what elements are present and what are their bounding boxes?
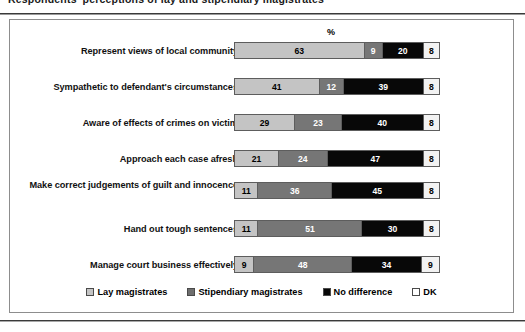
chart-row: Aware of effects of crimes on victim2923… xyxy=(0,114,525,131)
stacked-bar: 1151308 xyxy=(234,220,440,237)
category-label: Sympathetic to defendant's circumstances xyxy=(8,82,238,93)
bar-segment-value: 45 xyxy=(372,186,382,196)
stacked-bar: 2124478 xyxy=(234,150,440,167)
bar-segment-value: 8 xyxy=(429,186,434,196)
bar-segment-stipendiary-magistrates: 51 xyxy=(257,221,361,236)
bar-segment-value: 20 xyxy=(398,46,408,56)
stacked-bar-chart-plot: Represent views of local community639208… xyxy=(0,0,525,332)
horizontal-rule-bottom xyxy=(0,320,525,322)
chart-row: Make correct judgements of guilt and inn… xyxy=(0,182,525,199)
stipendiary-magistrates-swatch xyxy=(187,288,195,296)
category-label: Hand out tough sentences xyxy=(8,224,238,235)
bar-segment-value: 9 xyxy=(428,260,433,270)
legend-label: DK xyxy=(423,287,436,297)
bar-segment-lay-magistrates: 21 xyxy=(235,151,278,166)
bar-segment-value: 8 xyxy=(429,46,434,56)
legend-label: Stipendiary magistrates xyxy=(198,287,302,297)
bar-segment-value: 48 xyxy=(298,260,308,270)
bar-segment-value: 29 xyxy=(260,118,270,128)
legend-item[interactable]: Lay magistrates xyxy=(86,287,167,297)
chart-row: Manage court business effectively948349 xyxy=(0,256,525,273)
bar-segment-value: 8 xyxy=(429,118,434,128)
bar-segment-value: 12 xyxy=(327,82,337,92)
bar-segment-value: 8 xyxy=(429,154,434,164)
bar-segment-dk: 8 xyxy=(423,79,439,94)
stacked-bar: 4112398 xyxy=(234,78,440,95)
bar-segment-stipendiary-magistrates: 23 xyxy=(294,115,341,130)
bar-segment-value: 40 xyxy=(378,118,388,128)
dk-swatch xyxy=(412,288,420,296)
lay-magistrates-swatch xyxy=(86,288,94,296)
bar-segment-stipendiary-magistrates: 48 xyxy=(253,257,351,272)
bar-segment-value: 24 xyxy=(298,154,308,164)
bar-segment-lay-magistrates: 29 xyxy=(235,115,294,130)
bar-segment-value: 30 xyxy=(388,224,398,234)
bar-segment-stipendiary-magistrates: 24 xyxy=(278,151,327,166)
bar-segment-lay-magistrates: 63 xyxy=(235,43,364,58)
bar-segment-dk: 9 xyxy=(421,257,439,272)
category-label: Make correct judgements of guilt and inn… xyxy=(8,180,238,191)
bar-segment-lay-magistrates: 41 xyxy=(235,79,319,94)
category-label: Aware of effects of crimes on victim xyxy=(8,118,238,129)
bar-segment-dk: 8 xyxy=(423,43,439,58)
category-label: Manage court business effectively xyxy=(8,260,238,271)
bar-segment-value: 23 xyxy=(313,118,323,128)
bar-segment-no-difference: 40 xyxy=(341,115,423,130)
bar-segment-value: 34 xyxy=(382,260,392,270)
bar-segment-value: 51 xyxy=(305,224,315,234)
legend-item[interactable]: No difference xyxy=(323,287,393,297)
stacked-bar: 948349 xyxy=(234,256,440,273)
bar-segment-value: 8 xyxy=(429,224,434,234)
legend-item[interactable]: Stipendiary magistrates xyxy=(187,287,302,297)
bar-segment-stipendiary-magistrates: 12 xyxy=(319,79,343,94)
bar-segment-value: 39 xyxy=(379,82,389,92)
bar-segment-value: 9 xyxy=(242,260,247,270)
bar-segment-value: 36 xyxy=(290,186,300,196)
bar-segment-value: 63 xyxy=(294,46,304,56)
legend-label: Lay magistrates xyxy=(97,287,167,297)
bar-segment-no-difference: 34 xyxy=(351,257,420,272)
chart-legend: Lay magistratesStipendiary magistratesNo… xyxy=(9,287,514,297)
bar-segment-stipendiary-magistrates: 36 xyxy=(257,183,330,198)
bar-segment-value: 9 xyxy=(371,46,376,56)
legend-item[interactable]: DK xyxy=(412,287,436,297)
bar-segment-dk: 8 xyxy=(423,221,439,236)
bar-segment-lay-magistrates: 11 xyxy=(235,183,257,198)
bar-segment-dk: 8 xyxy=(423,151,439,166)
stacked-bar: 2923408 xyxy=(234,114,440,131)
category-label: Represent views of local community xyxy=(8,46,238,57)
bar-segment-stipendiary-magistrates: 9 xyxy=(364,43,382,58)
category-label: Approach each case afresh xyxy=(8,154,238,165)
bar-segment-dk: 8 xyxy=(423,115,439,130)
bar-segment-no-difference: 47 xyxy=(327,151,423,166)
chart-row: Sympathetic to defendant's circumstances… xyxy=(0,78,525,95)
bar-segment-no-difference: 39 xyxy=(343,79,423,94)
bar-segment-value: 21 xyxy=(252,154,262,164)
bar-segment-value: 47 xyxy=(370,154,380,164)
bar-segment-lay-magistrates: 11 xyxy=(235,221,257,236)
chart-row: Hand out tough sentences1151308 xyxy=(0,220,525,237)
bar-segment-lay-magistrates: 9 xyxy=(235,257,253,272)
bar-segment-value: 41 xyxy=(272,82,282,92)
legend-label: No difference xyxy=(334,287,393,297)
no-difference-swatch xyxy=(323,288,331,296)
bar-segment-no-difference: 30 xyxy=(361,221,422,236)
bar-segment-value: 8 xyxy=(429,82,434,92)
chart-row: Approach each case afresh2124478 xyxy=(0,150,525,167)
stacked-bar: 639208 xyxy=(234,42,440,59)
bar-segment-value: 11 xyxy=(242,224,251,234)
stacked-bar: 1136458 xyxy=(234,182,440,199)
bar-segment-no-difference: 20 xyxy=(382,43,423,58)
bar-segment-dk: 8 xyxy=(423,183,439,198)
chart-row: Represent views of local community639208 xyxy=(0,42,525,59)
bar-segment-value: 11 xyxy=(242,186,251,196)
bar-segment-no-difference: 45 xyxy=(331,183,423,198)
